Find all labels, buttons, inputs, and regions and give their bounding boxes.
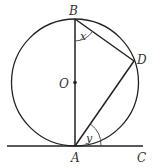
label-b: B <box>68 4 78 18</box>
label-a: A <box>70 151 80 165</box>
label-c: C <box>137 151 146 165</box>
chord-ad <box>75 61 134 146</box>
geometry-diagram: B O D A C x y <box>0 0 163 168</box>
label-angle-x: x <box>80 30 87 43</box>
label-o: O <box>59 77 69 91</box>
label-angle-y: y <box>85 132 93 145</box>
centre-point-o <box>73 81 77 85</box>
label-d: D <box>136 53 147 67</box>
